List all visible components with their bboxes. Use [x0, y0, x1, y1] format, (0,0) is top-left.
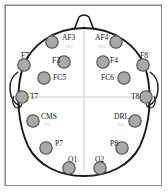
- electrode-label-cms: CMS: [41, 113, 57, 121]
- electrode-drl[interactable]: [129, 115, 141, 127]
- electrode-fc6[interactable]: [118, 72, 130, 84]
- electrode-label-fc5: FC5: [53, 74, 66, 82]
- electrode-label-t7: T7: [30, 93, 38, 101]
- electrode-label-af4: AF4: [95, 34, 108, 42]
- head-map-stage: AF3FP1AF4FP2F7F8F3F4FC5FC6T7T8CMSP3DRLP4…: [0, 0, 168, 192]
- electrode-cms[interactable]: [27, 115, 39, 127]
- electrode-label-f4: F4: [110, 57, 118, 65]
- electrode-label-drl: DRL: [114, 113, 129, 121]
- head-diagram-svg: [0, 0, 168, 192]
- electrode-label-f8: F8: [140, 52, 148, 60]
- electrode-label-fc6: FC6: [101, 74, 114, 82]
- electrode-t8[interactable]: [140, 91, 152, 103]
- electrode-p7[interactable]: [40, 142, 52, 154]
- electrode-label-o1: O1: [68, 156, 77, 164]
- electrode-label-af3: AF3: [62, 34, 75, 42]
- electrode-label-p8: P8: [110, 140, 118, 148]
- electrode-label-f7: F7: [21, 52, 29, 60]
- electrode-label-t8: T8: [131, 93, 139, 101]
- electrode-label-o2: O2: [95, 156, 104, 164]
- electrode-sublabel-cms: P3: [45, 122, 50, 127]
- electrode-fc5[interactable]: [38, 72, 50, 84]
- electrode-af4[interactable]: [110, 36, 122, 48]
- electrode-af3[interactable]: [46, 36, 58, 48]
- electrode-sublabel-af3: FP1: [65, 44, 73, 49]
- electrode-f8[interactable]: [137, 59, 149, 71]
- eeg-electrode-placement-figure: AF3FP1AF4FP2F7F8F3F4FC5FC6T7T8CMSP3DRLP4…: [0, 0, 168, 192]
- electrode-sublabel-drl: P4: [118, 122, 123, 127]
- electrode-f4[interactable]: [97, 56, 109, 68]
- electrode-f7[interactable]: [18, 59, 30, 71]
- electrode-label-p7: P7: [55, 140, 63, 148]
- electrode-label-f3: F3: [52, 57, 60, 65]
- electrode-sublabel-af4: FP2: [98, 44, 106, 49]
- electrode-t7[interactable]: [16, 91, 28, 103]
